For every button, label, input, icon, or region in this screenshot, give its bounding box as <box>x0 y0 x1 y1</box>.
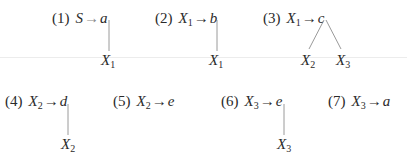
rule-3: (3)X1→c <box>263 10 324 31</box>
rule-number: (6) <box>221 93 239 109</box>
child-node: X1 <box>209 52 223 73</box>
rule-lhs: S <box>76 10 84 26</box>
rule-rhs: a <box>100 10 108 26</box>
rule-lhs: X <box>29 93 38 109</box>
rule-7: (7)X3→a <box>328 93 390 114</box>
child-node: X1 <box>101 52 115 73</box>
rule-number: (3) <box>263 10 281 26</box>
rule-lhs: X <box>287 10 296 26</box>
arrow-icon: → <box>44 93 59 109</box>
child-node: X2 <box>61 136 75 157</box>
rule-lhs: X <box>352 93 361 109</box>
arrow-icon: → <box>302 10 317 26</box>
rule-lhs: X <box>179 10 188 26</box>
arrow-icon: → <box>152 93 167 109</box>
rule-lhs: X <box>137 93 146 109</box>
rule-4: (4)X2→d <box>5 93 67 114</box>
rule-5: (5)X2→e <box>113 93 174 114</box>
rule-number: (4) <box>5 93 23 109</box>
rule-lhs: X <box>245 93 254 109</box>
child-node: X3 <box>277 136 291 157</box>
rule-rhs: d <box>60 93 68 109</box>
rule-number: (1) <box>52 10 70 26</box>
rule-number: (2) <box>155 10 173 26</box>
arrow-icon: → <box>367 93 382 109</box>
child-node: X3 <box>336 52 350 73</box>
arrow-icon: → <box>84 10 99 26</box>
rule-rhs: a <box>383 93 391 109</box>
rule-2: (2)X1→b <box>155 10 217 31</box>
rule-6: (6)X3→e <box>221 93 282 114</box>
arrow-icon: → <box>260 93 275 109</box>
rule-number: (5) <box>113 93 131 109</box>
rule-rhs: e <box>276 93 283 109</box>
edge-rule3-right <box>326 20 341 49</box>
rule-number: (7) <box>328 93 346 109</box>
child-node: X2 <box>301 52 315 73</box>
rule-rhs: c <box>318 10 325 26</box>
rule-1: (1)S→a <box>52 10 108 26</box>
arrow-icon: → <box>194 10 209 26</box>
rule-rhs: b <box>210 10 218 26</box>
rule-rhs: e <box>168 93 175 109</box>
